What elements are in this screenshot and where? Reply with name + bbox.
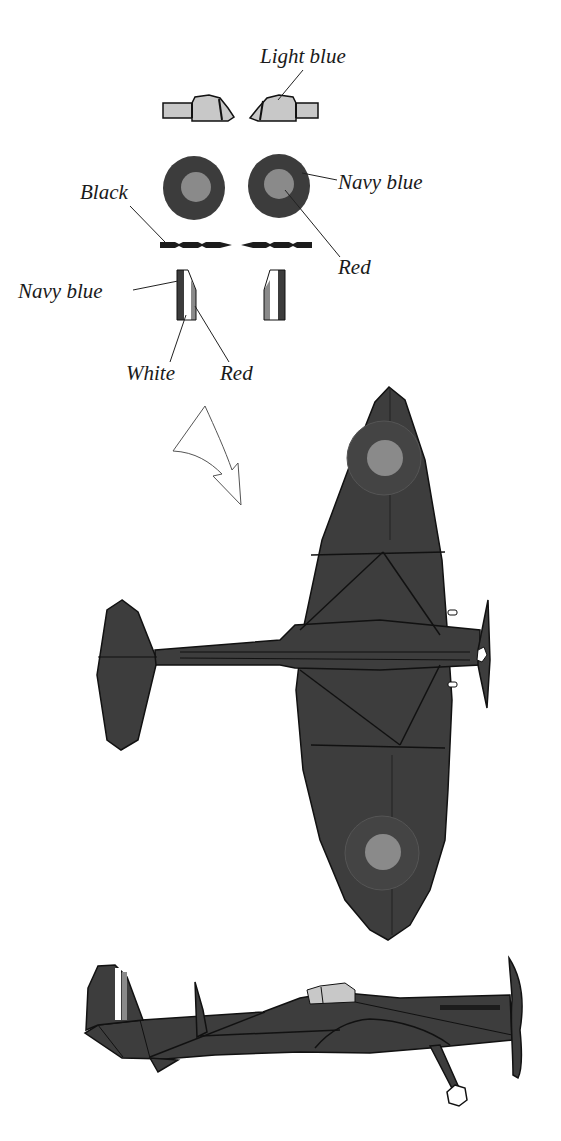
label-navy-blue-roundel: Navy blue [338, 170, 423, 195]
black-strip-left [160, 242, 232, 248]
black-strip-right [241, 242, 312, 248]
label-white-fin: White [126, 361, 175, 386]
canopy-part-left [163, 95, 234, 121]
leader-line-light-blue [278, 70, 303, 100]
aircraft-top-view [97, 387, 490, 940]
aircraft-side-view [85, 958, 522, 1106]
label-navy-blue-fin: Navy blue [18, 279, 103, 304]
label-black: Black [80, 180, 128, 205]
roundel-left [163, 156, 225, 220]
leader-line-navy-fin [133, 281, 178, 290]
diagram-canvas [0, 0, 561, 1141]
canopy-part-right [250, 95, 318, 121]
fin-flash-left [177, 270, 196, 320]
leader-line-red-roundel [285, 190, 340, 257]
label-red-fin: Red [220, 361, 253, 386]
fin-flash-right [264, 270, 285, 320]
leader-line-white-fin [170, 315, 186, 362]
label-light-blue: Light blue [260, 44, 346, 69]
leader-line-red-fin [195, 306, 229, 362]
leader-line-black [130, 206, 165, 242]
label-red-roundel: Red [338, 255, 371, 280]
curved-arrow-icon [173, 406, 241, 505]
